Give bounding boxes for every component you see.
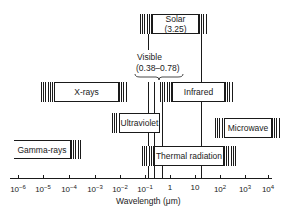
- axis-tick: [95, 175, 96, 179]
- axis-title: Wavelength (μm): [116, 196, 181, 206]
- axis-tick: [120, 175, 121, 179]
- axis-tick-label: 10: [191, 183, 200, 192]
- microwave-left-hatch: [215, 118, 224, 138]
- ultraviolet-left-hatch: [112, 113, 119, 133]
- visible-label: Visible: [137, 52, 162, 62]
- axis-tick-label: 10−4: [61, 183, 77, 194]
- thermal-radiation-box: Thermal radiation: [154, 146, 224, 166]
- solar-right-hatch: [199, 14, 207, 34]
- axis-tick: [145, 175, 146, 179]
- axis-tick-label: 10−6: [10, 183, 26, 194]
- axis-tick: [43, 175, 44, 179]
- solar-sublabel: (3.25): [164, 24, 186, 34]
- microwave-box: Microwave: [224, 118, 272, 138]
- axis-tick: [195, 175, 196, 179]
- axis-tick-label: 102: [214, 183, 226, 194]
- axis-tick: [268, 175, 269, 179]
- xrays-box: X-rays: [54, 82, 119, 102]
- axis-tick-label: 10−3: [87, 183, 103, 194]
- ultraviolet-label: Ultraviolet: [121, 118, 159, 128]
- infrared-label: Infrared: [184, 87, 213, 97]
- axis-tick-label: 10−1: [137, 183, 153, 194]
- solar-left-hatch: [140, 14, 152, 34]
- microwave-right-hatch: [272, 118, 281, 138]
- axis-tick: [170, 175, 171, 179]
- axis-tick-label: 103: [239, 183, 251, 194]
- infrared-left-hatch: [160, 82, 172, 102]
- visible-sublabel: (0.38–0.78): [136, 63, 179, 73]
- solar-label: Solar: [166, 14, 186, 24]
- axis-tick-label: 10−5: [35, 183, 51, 194]
- visible-brace-icon: [134, 73, 184, 81]
- axis-tick: [69, 175, 70, 179]
- thermal-left-hatch: [142, 146, 154, 166]
- xrays-left-hatch: [41, 82, 54, 102]
- gamma-rays-right-hatch: [71, 140, 81, 159]
- axis-tick-label: 104: [262, 183, 274, 194]
- infrared-right-hatch: [225, 82, 234, 102]
- microwave-label: Microwave: [228, 123, 269, 133]
- solar-box: Solar (3.25): [152, 14, 199, 34]
- xrays-label: X-rays: [74, 87, 99, 97]
- axis-tick: [18, 175, 19, 179]
- gamma-rays-label: Gamma-rays: [17, 145, 66, 155]
- axis-tick-label: 1: [168, 183, 172, 192]
- ultraviolet-box: Ultraviolet: [119, 113, 160, 133]
- thermal-radiation-label: Thermal radiation: [156, 151, 222, 161]
- axis-tick-label: 10−2: [112, 183, 128, 194]
- solar-left-line: [148, 34, 149, 50]
- spectrum-diagram: Solar (3.25) Visible (0.38–0.78) X-rays …: [0, 0, 293, 214]
- wavelength-axis-line: [10, 178, 272, 179]
- axis-tick: [220, 175, 221, 179]
- xrays-right-hatch: [119, 82, 127, 102]
- gamma-rays-box: Gamma-rays: [14, 140, 71, 159]
- axis-tick: [245, 175, 246, 179]
- thermal-right-hatch: [224, 146, 236, 166]
- infrared-box: Infrared: [172, 82, 225, 102]
